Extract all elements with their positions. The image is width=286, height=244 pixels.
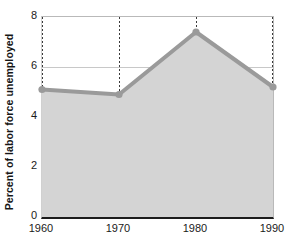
y-tick-label-4: 4 <box>7 109 37 121</box>
y-axis-title: Percent of labor force unemployed <box>0 0 18 244</box>
y-tick-label-8: 8 <box>7 9 37 21</box>
x-tick-label-1990: 1990 <box>249 222 286 234</box>
y-tick-label-6: 6 <box>7 59 37 71</box>
data-point-1970 <box>115 91 122 98</box>
x-tick-label-1970: 1970 <box>95 222 141 234</box>
x-tick-label-1960: 1960 <box>18 222 64 234</box>
unemployment-area-chart: Percent of labor force unemployed 86420 … <box>0 0 286 244</box>
data-point-1980 <box>192 28 199 35</box>
y-tick-label-2: 2 <box>7 159 37 171</box>
plot-inner <box>42 17 273 217</box>
data-point-1960 <box>38 86 45 93</box>
area-fill <box>42 32 273 217</box>
x-tick-label-1980: 1980 <box>172 222 218 234</box>
y-tick-label-0: 0 <box>7 209 37 221</box>
plot-area <box>41 16 274 219</box>
data-point-1990 <box>269 83 276 90</box>
data-series-layer <box>42 17 273 217</box>
